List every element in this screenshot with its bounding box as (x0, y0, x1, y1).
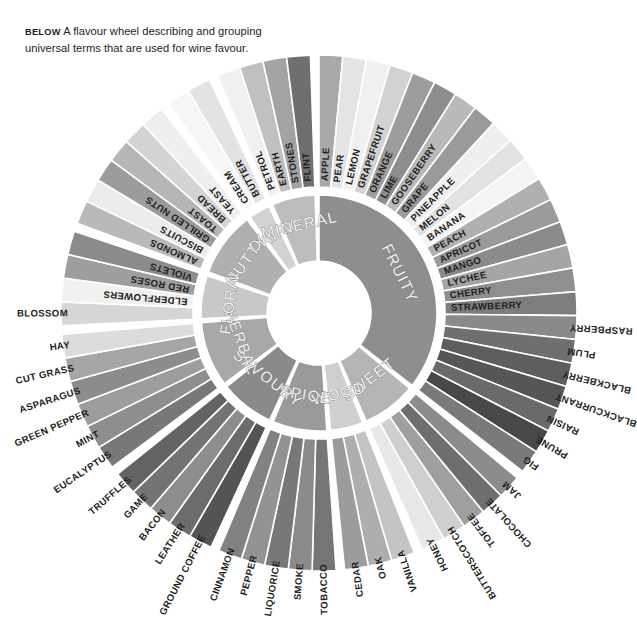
flavour-label: TOBACCO (318, 564, 330, 615)
flavour-label: FLINT (300, 152, 313, 182)
flavour-label: RAISIN (545, 413, 581, 437)
flavour-label: APPLE (319, 147, 332, 181)
flavour-label: BLOSSOM (17, 307, 68, 318)
flavour-label: PRUNE (533, 434, 569, 461)
flavour-label: CUT GRASS (15, 362, 76, 386)
flavour-label: PEPPER (238, 554, 259, 596)
page-root: BELOW A flavour wheel describing and gro… (0, 0, 637, 626)
wheel-hub (267, 261, 371, 365)
flavour-label: TOFFEE (464, 511, 497, 550)
flavour-label: EUCALYPTUS (51, 448, 113, 495)
flavour-label: BLACKBERRY (561, 369, 632, 397)
flavour-label: MINT (74, 428, 101, 450)
wine-flavour-wheel[interactable]: APPLEPEARLEMONGRAPEFRUITORANGELIMEGOOSEB… (0, 0, 637, 626)
flavour-label: CINNAMON (207, 546, 236, 602)
flavour-label: VANILLA (395, 549, 420, 594)
flavour-label: SMOKE (291, 563, 305, 601)
flavour-label: LIQUORICE (262, 559, 282, 617)
flavour-label: ASPARAGUS (18, 385, 82, 415)
flavour-label: RASPBERRY (569, 323, 633, 338)
flavour-label: LEATHER (152, 521, 187, 567)
flavour-label: BACON (136, 507, 167, 543)
